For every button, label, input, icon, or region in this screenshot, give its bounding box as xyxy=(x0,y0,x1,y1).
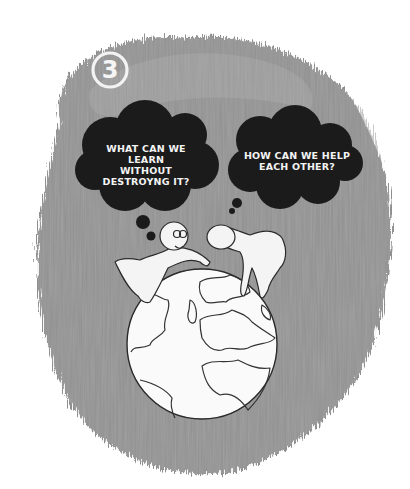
thought-left-line-1: WHAT CAN WE LEARN xyxy=(92,143,200,165)
thought-text-right: HOW CAN WE HELP EACH OTHER? xyxy=(243,150,351,172)
illustration: 3 WHAT CAN WE LEARN WITHOUT DESTROYNG IT… xyxy=(0,0,410,489)
thought-left-line-2: WITHOUT xyxy=(92,165,200,176)
thought-right-line-1: HOW CAN WE HELP xyxy=(243,150,351,161)
thought-right-line-2: EACH OTHER? xyxy=(243,161,351,172)
illustration-canvas xyxy=(0,0,410,489)
thought-left-line-3: DESTROYNG IT? xyxy=(92,176,200,187)
thought-text-left: WHAT CAN WE LEARN WITHOUT DESTROYNG IT? xyxy=(92,143,200,187)
step-number: 3 xyxy=(96,55,124,85)
